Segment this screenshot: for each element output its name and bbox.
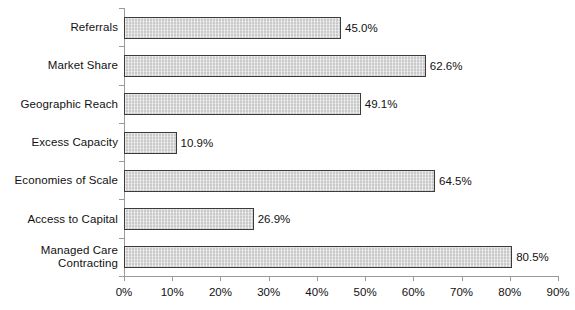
x-axis-tick	[510, 276, 511, 281]
category-label-market-share: Market Share	[0, 59, 118, 72]
x-axis-tick	[220, 276, 221, 281]
bar-value-label: 26.9%	[258, 213, 291, 225]
bar-value-label: 45.0%	[345, 22, 378, 34]
y-axis-tick	[119, 123, 124, 124]
bar-value-label: 10.9%	[181, 137, 214, 149]
y-axis-tick	[119, 199, 124, 200]
x-axis-tick-label: 90%	[528, 286, 575, 298]
category-label-referrals: Referrals	[0, 21, 118, 34]
bar-access-to-capital[interactable]	[124, 208, 254, 230]
y-axis-tick	[119, 85, 124, 86]
category-label-excess-capacity: Excess Capacity	[0, 136, 118, 149]
category-label-geographic-reach: Geographic Reach	[0, 98, 118, 111]
bar-economies-of-scale[interactable]	[124, 170, 435, 192]
bar-managed-care-contracting[interactable]	[124, 246, 512, 268]
y-axis-tick	[119, 8, 124, 9]
x-axis-tick	[172, 276, 173, 281]
bar-excess-capacity[interactable]	[124, 132, 177, 154]
x-axis-tick	[558, 276, 559, 281]
bar-market-share[interactable]	[124, 55, 426, 77]
bar-value-label: 64.5%	[439, 175, 472, 187]
x-axis-tick	[365, 276, 366, 281]
bar-geographic-reach[interactable]	[124, 93, 361, 115]
bar-value-label: 62.6%	[430, 60, 463, 72]
x-axis-tick	[413, 276, 414, 281]
x-axis-tick	[317, 276, 318, 281]
plot-area: 45.0% 62.6% 49.1% 10.9% 64.5% 26.9% 80.5…	[124, 8, 558, 276]
x-axis-tick	[124, 276, 125, 281]
y-axis-tick	[119, 46, 124, 47]
x-axis-tick	[269, 276, 270, 281]
bar-chart: Referrals Market Share Geographic Reach …	[0, 0, 575, 310]
y-axis-tick	[119, 238, 124, 239]
category-label-managed-care-contracting: Managed Care Contracting	[0, 244, 118, 270]
x-axis-tick	[462, 276, 463, 281]
category-label-access-to-capital: Access to Capital	[0, 213, 118, 226]
category-label-economies-of-scale: Economies of Scale	[0, 174, 118, 187]
bar-referrals[interactable]	[124, 17, 341, 39]
bar-value-label: 80.5%	[516, 251, 549, 263]
y-axis-tick	[119, 161, 124, 162]
x-axis-line	[124, 276, 558, 277]
bar-value-label: 49.1%	[365, 98, 398, 110]
